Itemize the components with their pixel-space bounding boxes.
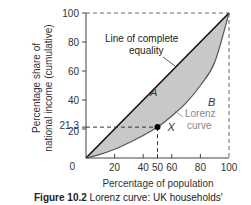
x-axis-title: Percentage of population: [102, 178, 213, 189]
lorenz-annotation-line2: curve: [187, 120, 212, 131]
region-b-label: B: [208, 96, 215, 108]
y-axis-title-line1: Percentage share of: [31, 43, 42, 133]
point-x-marker: [155, 124, 161, 130]
x-tick-label: 100: [221, 162, 238, 173]
y-tick-label: 80: [68, 37, 80, 48]
x-tick-label: 40: [138, 162, 150, 173]
lorenz-annotation-line1: Lorenz: [185, 108, 216, 119]
y-axis-title-line2: national income (cumulative): [43, 24, 54, 151]
y-ticks: 02021.3406080100: [60, 8, 86, 172]
x-tick-label: 50: [152, 162, 164, 173]
lorenz-annotation-leader: [175, 111, 183, 117]
equality-annotation-line2: equality: [129, 45, 163, 56]
equality-annotation-leader: [163, 57, 175, 66]
y-tick-label: 40: [68, 95, 80, 106]
y-tick-label: 0: [69, 161, 75, 172]
x-tick-label: 80: [195, 162, 207, 173]
region-a-label: A: [149, 86, 157, 98]
equality-annotation-line1: Line of complete: [105, 33, 179, 44]
x-ticks: 2040506080100: [109, 154, 238, 173]
point-x-label: X: [167, 121, 176, 133]
figure-caption-label: Figure 10.2: [34, 192, 87, 203]
x-tick-label: 20: [109, 162, 121, 173]
figure-caption-text: Lorenz curve: UK households': [90, 192, 223, 203]
figure-caption: Figure 10.2 Lorenz curve: UK households': [34, 192, 223, 203]
x-tick-label: 60: [166, 162, 178, 173]
y-tick-label: 21.3: [60, 120, 80, 131]
lorenz-chart: 02021.3406080100 2040506080100 X A B Lin…: [0, 0, 251, 205]
y-tick-label: 100: [62, 8, 79, 19]
y-tick-label: 60: [68, 66, 80, 77]
